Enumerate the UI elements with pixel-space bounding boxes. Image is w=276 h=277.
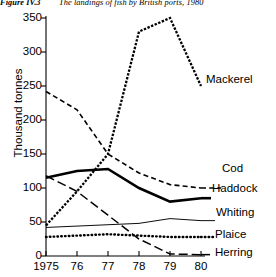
series-line-mackerel bbox=[46, 18, 201, 225]
series-line-whiting bbox=[46, 219, 201, 228]
series-label-plaice: Plaice bbox=[215, 229, 246, 241]
series-label-mackerel: Mackerel bbox=[206, 74, 253, 86]
x-tick-marks bbox=[46, 251, 201, 256]
series-label-cod: Cod bbox=[222, 163, 243, 175]
series-label-whiting: Whiting bbox=[216, 207, 254, 219]
series-label-haddock: Haddock bbox=[212, 183, 257, 195]
figure-container: Figure IV.3 The landings of fish by Brit… bbox=[0, 0, 276, 277]
series-group bbox=[46, 18, 201, 255]
series-line-herring bbox=[46, 176, 201, 255]
label-leaders bbox=[201, 188, 221, 255]
series-line-plaice bbox=[46, 234, 201, 237]
y-tick-marks bbox=[41, 18, 46, 256]
series-label-herring: Herring bbox=[215, 247, 253, 259]
